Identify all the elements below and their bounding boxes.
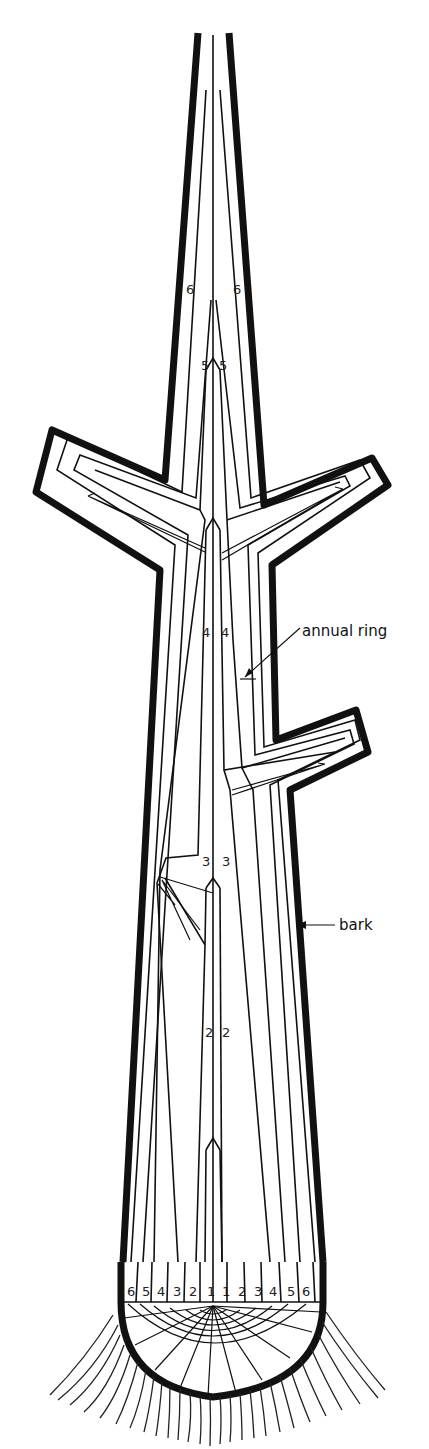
ring-number-4-right: 4 xyxy=(221,625,229,640)
ring-6-right xyxy=(220,90,370,1262)
svg-text:1: 1 xyxy=(207,1284,215,1299)
svg-text:6: 6 xyxy=(302,1284,310,1299)
ring-2-left xyxy=(165,878,206,1262)
annual-ring-label: annual ring xyxy=(302,622,387,640)
svg-text:4: 4 xyxy=(157,1284,165,1299)
bark-label: bark xyxy=(339,916,373,934)
roots-fringe xyxy=(50,1312,385,1446)
svg-text:4: 4 xyxy=(269,1284,277,1299)
ring-number-3-left: 3 xyxy=(202,854,210,869)
ring-5-right xyxy=(216,300,354,1262)
ring-number-5-right: 5 xyxy=(219,358,227,373)
left-branch-cone xyxy=(88,493,205,552)
ring-number-6-left: 6 xyxy=(186,282,194,297)
ring-number-2-right: 2 xyxy=(222,1025,230,1040)
ring-5-left xyxy=(74,300,211,1262)
svg-text:6: 6 xyxy=(127,1284,135,1299)
ring-number-5-left: 5 xyxy=(201,358,209,373)
base-number-row: 6 5 4 3 2 1 1 2 3 4 5 6 xyxy=(127,1284,310,1299)
bark-outline-left xyxy=(36,33,198,1262)
ring-number-2-left: 2 xyxy=(205,1025,213,1040)
ring-number-4-left: 4 xyxy=(202,625,210,640)
svg-text:5: 5 xyxy=(142,1284,150,1299)
svg-text:1: 1 xyxy=(222,1284,230,1299)
svg-text:5: 5 xyxy=(287,1284,295,1299)
ring-number-3-right: 3 xyxy=(222,854,230,869)
tree-diagram: 6 6 5 5 4 4 3 3 2 2 annual ring bark 6 5… xyxy=(0,0,429,1449)
ring-number-6-right: 6 xyxy=(233,282,241,297)
bark-outline-right xyxy=(229,33,388,1262)
svg-text:3: 3 xyxy=(173,1284,181,1299)
svg-text:2: 2 xyxy=(189,1284,197,1299)
